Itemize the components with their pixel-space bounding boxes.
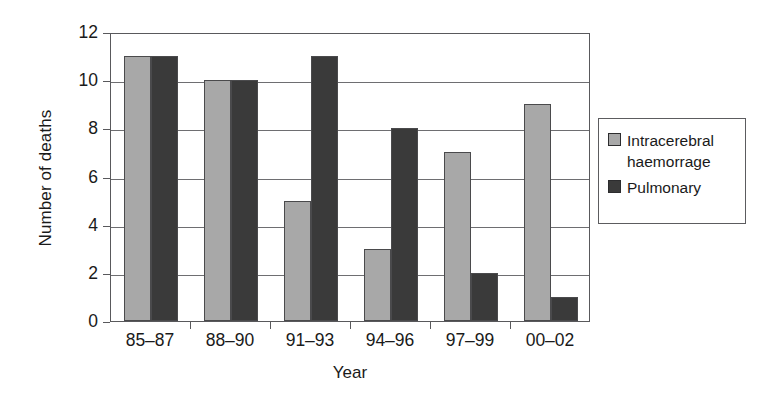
bar-0-5 — [524, 104, 551, 321]
x-tick-label-2: 91–93 — [265, 331, 355, 350]
legend-label-series-1: Pulmonary — [627, 177, 701, 198]
x-axis-title: Year — [110, 363, 590, 383]
x-tick-mark-5 — [510, 322, 511, 329]
bar-1-0 — [151, 56, 178, 321]
legend-label-series-0: Intracerebral haemorrage — [627, 130, 739, 172]
bar-group-94-96 — [364, 34, 418, 321]
y-tick-label-10: 10 — [56, 72, 98, 90]
x-tick-label-1: 88–90 — [185, 331, 275, 350]
y-tick-label-2: 2 — [56, 265, 98, 283]
y-tick-mark-0 — [103, 322, 110, 323]
x-tick-label-3: 94–96 — [345, 331, 435, 350]
x-tick-label-0: 85–87 — [105, 331, 195, 350]
y-tick-label-4: 4 — [56, 217, 98, 235]
bar-group-88-90 — [204, 34, 258, 321]
legend-item-pulmonary: Pulmonary — [608, 177, 701, 198]
y-tick-label-8: 8 — [56, 120, 98, 138]
y-tick-mark-6 — [103, 178, 110, 179]
y-axis-title: Number of deaths — [36, 63, 56, 293]
bar-0-0 — [124, 56, 151, 321]
y-tick-label-6: 6 — [56, 169, 98, 187]
x-tick-mark-4 — [430, 322, 431, 329]
bar-0-4 — [444, 152, 471, 321]
legend-swatch-icon-series-0 — [608, 133, 621, 146]
y-tick-mark-8 — [103, 129, 110, 130]
y-tick-mark-2 — [103, 274, 110, 275]
bar-group-85-87 — [124, 34, 178, 321]
y-tick-mark-10 — [103, 81, 110, 82]
legend-swatch-icon-series-1 — [608, 180, 621, 193]
chart-legend: Intracerebral haemorrage Pulmonary — [598, 118, 746, 224]
bar-0-1 — [204, 80, 231, 321]
bar-group-00-02 — [524, 34, 578, 321]
legend-item-intracerebral-haemorrage: Intracerebral haemorrage — [608, 130, 739, 172]
y-tick-mark-12 — [103, 33, 110, 34]
bar-1-5 — [551, 297, 578, 321]
bars-layer — [111, 34, 589, 321]
x-tick-mark-2 — [270, 322, 271, 329]
x-tick-label-5: 00–02 — [505, 331, 595, 350]
x-tick-mark-1 — [190, 322, 191, 329]
bar-0-3 — [364, 249, 391, 321]
bar-1-2 — [311, 56, 338, 321]
plot-area — [110, 33, 590, 322]
x-tick-label-4: 97–99 — [425, 331, 515, 350]
bar-0-2 — [284, 201, 311, 321]
bar-group-97-99 — [444, 34, 498, 321]
bar-1-4 — [471, 273, 498, 321]
bar-chart-figure: Number of deaths 024681012 85–8788–9091–… — [0, 0, 782, 401]
y-tick-label-0: 0 — [56, 313, 98, 331]
bar-1-1 — [231, 80, 258, 321]
bar-1-3 — [391, 128, 418, 321]
x-tick-mark-3 — [350, 322, 351, 329]
y-tick-mark-4 — [103, 226, 110, 227]
bar-group-91-93 — [284, 34, 338, 321]
y-tick-label-12: 12 — [56, 24, 98, 42]
